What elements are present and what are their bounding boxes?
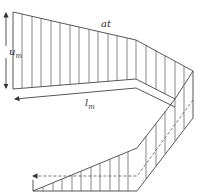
lower-base-line	[33, 118, 193, 191]
top-edge-label: at	[101, 19, 111, 29]
hatch-lines-lower	[43, 86, 184, 191]
length-label: lm	[85, 98, 95, 111]
height-label: um	[9, 47, 22, 60]
lower-top-edge	[33, 99, 175, 191]
height-label-sub: m	[15, 52, 22, 60]
dashed-reference-line	[36, 100, 193, 176]
length-label-sub: m	[88, 103, 95, 111]
top-edge-text: at	[101, 18, 111, 29]
upper-base-line	[13, 79, 175, 99]
lower-band	[33, 86, 193, 191]
length-arrow	[15, 88, 175, 107]
distribution-diagram	[0, 0, 209, 196]
